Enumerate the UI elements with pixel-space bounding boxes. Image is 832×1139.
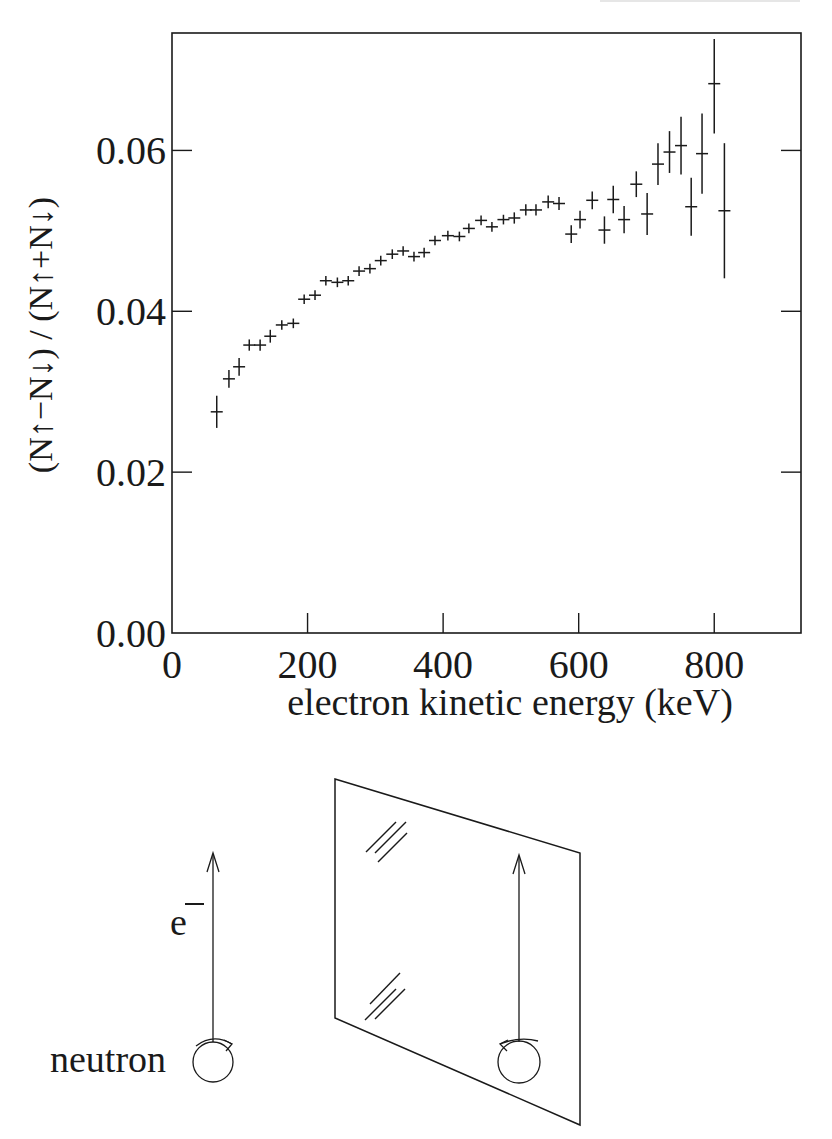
neutron-label: neutron [50, 1038, 166, 1080]
data-point [298, 294, 310, 304]
y-tick-label: 0.04 [96, 289, 166, 334]
data-point [664, 131, 676, 173]
data-point [641, 193, 653, 235]
data-point [542, 195, 554, 208]
y-axis-label: (N↑−N↓) / (N↑+N↓) [22, 197, 60, 473]
data-point [708, 39, 720, 134]
cropped-header-remnant [600, 0, 800, 2]
data-point [530, 204, 542, 215]
y-tick-label: 0.06 [96, 128, 166, 173]
y-tick-label: 0.02 [96, 450, 166, 495]
data-point [486, 222, 498, 232]
data-point [630, 171, 642, 197]
data-point [429, 236, 441, 246]
data-point [386, 249, 398, 259]
mirrored-neutron-circle-icon [498, 1041, 540, 1083]
neutron-decay-diagram: e neutron [50, 779, 580, 1125]
data-point [618, 206, 630, 233]
data-point [264, 330, 276, 343]
data-point [475, 216, 487, 226]
data-point [718, 143, 730, 278]
data-point [497, 215, 509, 225]
data-point [243, 339, 255, 350]
data-point [276, 320, 288, 330]
data-point [320, 276, 332, 286]
x-axis-ticks: 0200400600800 [162, 613, 744, 687]
neutron-circle-icon [193, 1042, 233, 1082]
data-point [331, 278, 343, 288]
data-point [211, 396, 223, 428]
data-point [675, 117, 687, 175]
data-point [287, 319, 299, 329]
data-point [565, 225, 577, 243]
data-point [586, 191, 598, 209]
x-axis-label: electron kinetic energy (keV) [287, 681, 733, 724]
data-point [696, 113, 708, 193]
data-point [453, 232, 465, 242]
mirror-group [335, 779, 580, 1125]
data-point [309, 290, 321, 300]
data-point [375, 256, 387, 266]
data-point [442, 231, 454, 241]
data-point [508, 212, 520, 223]
data-series-asymmetry [211, 39, 731, 428]
data-point [553, 197, 565, 210]
data-point [685, 178, 697, 236]
asymmetry-chart: 0200400600800 0.000.020.040.06 electron … [0, 0, 832, 1139]
data-point [607, 186, 619, 213]
data-point [353, 266, 365, 276]
data-point [598, 216, 610, 243]
data-point [652, 143, 664, 185]
mirror-glint-bottom-icon [365, 973, 405, 1020]
y-tick-label: 0.00 [96, 611, 166, 656]
data-point [254, 339, 266, 350]
data-point [574, 211, 586, 229]
mirror-plane [335, 779, 580, 1125]
mirror-glint-top-icon [366, 822, 407, 862]
data-point [342, 276, 354, 286]
data-point [364, 264, 376, 274]
original-neutron-group: e neutron [50, 853, 233, 1082]
figure: 0200400600800 0.000.020.040.06 electron … [0, 0, 832, 1139]
data-point [223, 370, 235, 388]
data-point [463, 224, 475, 234]
y-axis-ticks: 0.000.020.040.06 [96, 128, 801, 656]
data-point [233, 358, 245, 376]
electron-label: e [170, 901, 187, 943]
plot-frame [172, 33, 801, 633]
data-point [397, 246, 409, 256]
